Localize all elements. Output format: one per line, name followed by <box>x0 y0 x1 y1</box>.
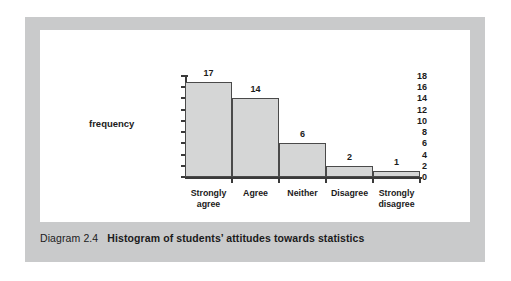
y-tick-label: 8 <box>422 128 427 137</box>
y-tick-label: 2 <box>422 162 427 171</box>
y-tick-label: 6 <box>422 139 427 148</box>
x-tick <box>325 177 327 183</box>
x-tick <box>419 177 421 183</box>
page-canvas: frequency 181614121086420 1714621 Strong… <box>0 0 511 281</box>
histogram-chart: frequency 181614121086420 1714621 Strong… <box>40 30 470 222</box>
bar-value-label: 2 <box>326 153 373 162</box>
y-tick-label: 10 <box>417 117 427 126</box>
bar <box>279 143 326 177</box>
caption-number: Diagram 2.4 <box>40 232 98 244</box>
category-label: Strongly disagree <box>368 188 425 210</box>
figure-caption: Diagram 2.4Histogram of students’ attitu… <box>40 232 470 244</box>
figure-panel: frequency 181614121086420 1714621 Strong… <box>25 17 485 262</box>
bar-value-label: 1 <box>373 158 420 167</box>
x-tick <box>372 177 374 183</box>
bar-value-label: 17 <box>185 69 232 78</box>
bar-value-label: 14 <box>232 85 279 94</box>
y-tick-label: 4 <box>422 151 427 160</box>
y-tick-label: 14 <box>417 94 427 103</box>
bar <box>373 171 420 177</box>
bar-value-label: 6 <box>279 130 326 139</box>
caption-title: Histogram of students’ attitudes towards… <box>107 232 364 244</box>
y-tick-label: 16 <box>417 83 427 92</box>
bar <box>326 166 373 177</box>
y-tick-label: 18 <box>417 72 427 81</box>
y-tick-label: 12 <box>417 106 427 115</box>
x-axis-line <box>185 177 422 179</box>
y-tick-label: 0 <box>422 173 427 182</box>
bar <box>185 82 232 177</box>
x-tick <box>278 177 280 183</box>
y-axis-title: frequency <box>89 118 134 129</box>
bar <box>232 98 279 177</box>
chart-card: frequency 181614121086420 1714621 Strong… <box>40 30 470 222</box>
x-tick <box>231 177 233 183</box>
plot-area: frequency 181614121086420 1714621 Strong… <box>185 76 435 177</box>
